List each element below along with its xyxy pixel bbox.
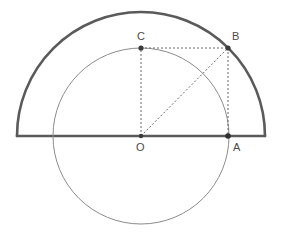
point-marker-o — [139, 134, 143, 138]
geometry-figure: C B O A — [0, 0, 281, 240]
segment-o-to-b-diagonal — [141, 48, 228, 136]
point-marker-b — [225, 45, 230, 50]
vertex-label-a: A — [233, 142, 241, 153]
point-marker-c — [138, 45, 143, 50]
point-marker-a — [225, 133, 231, 139]
vertex-label-o: O — [136, 142, 145, 153]
vertex-label-c: C — [137, 31, 145, 42]
vertex-label-b: B — [232, 31, 240, 42]
